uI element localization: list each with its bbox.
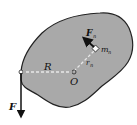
label-mn-sub: n xyxy=(108,49,111,55)
label-F: F xyxy=(8,101,17,112)
label-Fn: F xyxy=(85,28,93,38)
label-Fn-sub: n xyxy=(93,33,96,39)
label-rn-sub: n xyxy=(90,62,93,68)
rigid-body-diagram: F R O F n m n r n xyxy=(0,0,137,125)
label-R: R xyxy=(43,61,52,72)
rigid-body xyxy=(21,13,133,107)
label-O: O xyxy=(70,76,78,87)
